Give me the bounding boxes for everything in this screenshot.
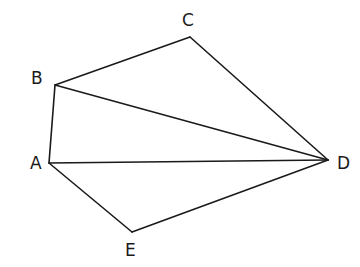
vertex-label-c: C <box>182 10 194 30</box>
labels-group: ABCDE <box>30 10 350 260</box>
edge-ab <box>49 85 55 163</box>
vertex-label-b: B <box>31 68 43 88</box>
edge-ae <box>49 163 132 232</box>
edge-ed <box>132 160 328 232</box>
edge-bc <box>55 37 190 85</box>
vertex-label-a: A <box>30 153 42 173</box>
pentagon-diagram: ABCDE <box>0 0 360 267</box>
edges-group <box>49 37 328 232</box>
vertex-label-d: D <box>337 153 350 173</box>
edge-ad <box>49 160 328 163</box>
vertex-label-e: E <box>125 240 136 260</box>
